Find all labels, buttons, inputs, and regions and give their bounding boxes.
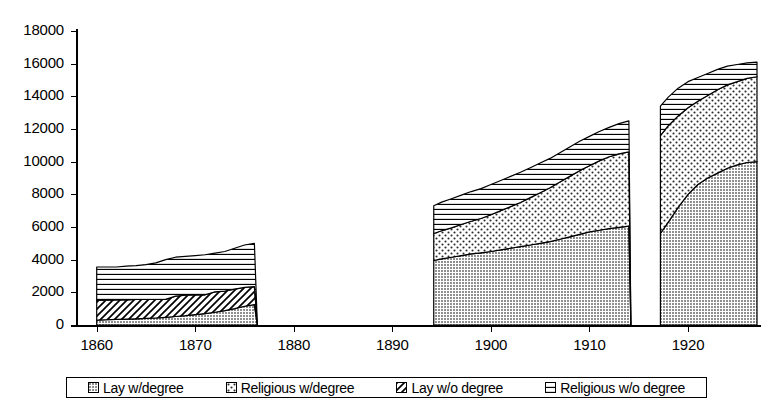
legend-label: Lay w/o degree	[411, 380, 503, 396]
legend-entry-3[interactable]: Religious w/o degree	[543, 380, 687, 396]
chart-container: 0200040006000800010000120001400016000180…	[0, 0, 774, 416]
legend-label: Religious w/o degree	[560, 380, 685, 396]
chart-legend: Lay w/degreeReligious w/degreeLay w/o de…	[66, 377, 707, 398]
legend-label: Religious w/degree	[241, 380, 355, 396]
legend-label: Lay w/degree	[103, 380, 183, 396]
legend-entry-0[interactable]: Lay w/degree	[86, 380, 185, 396]
legend-swatch-icon	[545, 382, 556, 393]
legend-entry-1[interactable]: Religious w/degree	[224, 380, 357, 396]
legend-swatch-icon	[396, 382, 407, 393]
legend-swatch-icon	[226, 382, 237, 393]
plot-area	[0, 0, 774, 416]
legend-entry-2[interactable]: Lay w/o degree	[394, 380, 505, 396]
legend-swatch-icon	[88, 382, 99, 393]
